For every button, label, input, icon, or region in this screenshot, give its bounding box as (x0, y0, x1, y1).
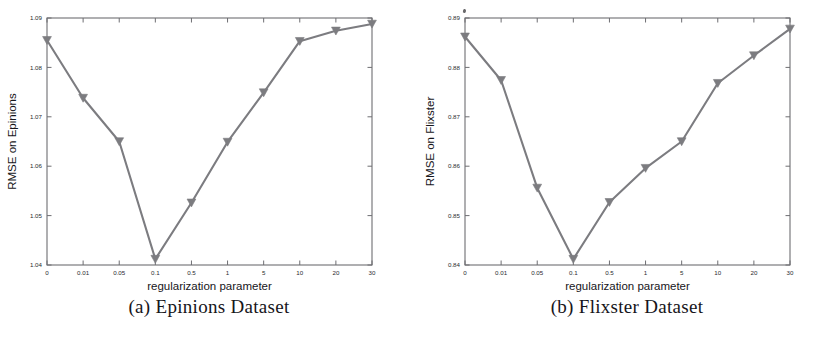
data-point-marker (115, 138, 124, 146)
y-tick-label: 0.84 (448, 261, 461, 268)
x-tick-label: 0.05 (113, 269, 126, 276)
x-tick-label: 20 (332, 269, 339, 276)
chart-epinions: 1.091.081.071.061.051.0400.010.050.10.51… (0, 0, 418, 292)
panel-caption-a: (a) Epinions Dataset (0, 296, 418, 318)
panel-epinions: 1.091.081.071.061.051.0400.010.050.10.51… (0, 0, 418, 350)
y-tick-label: 0.89 (448, 14, 461, 21)
y-tick-label: 0.87 (448, 113, 461, 120)
plot-frame (465, 18, 790, 265)
data-point-marker (569, 255, 578, 263)
x-tick-label: 5 (680, 269, 684, 276)
data-series-line (47, 24, 372, 259)
x-tick-label: 0.1 (151, 269, 160, 276)
y-tick-label: 1.06 (30, 162, 43, 169)
y-tick-label: 1.08 (30, 64, 43, 71)
y-tick-label: 1.07 (30, 113, 43, 120)
x-tick-label: 0.01 (495, 269, 508, 276)
data-point-marker (533, 184, 542, 192)
x-tick-label: 0.5 (605, 269, 614, 276)
x-tick-label: 10 (714, 269, 721, 276)
x-tick-label: 1 (644, 269, 648, 276)
y-tick-label: 1.09 (30, 14, 43, 21)
x-axis-title: regularization parameter (147, 280, 272, 292)
y-tick-label: 0.88 (448, 64, 461, 71)
y-axis-title: RMSE on Epinions (6, 93, 18, 190)
data-point-marker (223, 138, 232, 146)
x-axis-title: regularization parameter (565, 280, 690, 292)
x-tick-label: 0.01 (77, 269, 90, 276)
panel-caption-b: (b) Flixster Dataset (418, 296, 836, 318)
x-tick-label: 0.05 (531, 269, 544, 276)
figure-container: 1.091.081.071.061.051.0400.010.050.10.51… (0, 0, 836, 350)
plot-frame (47, 18, 372, 265)
panel-flixster: 0.890.880.870.860.850.8400.010.050.10.51… (418, 0, 836, 350)
chart-flixster-svg: 0.890.880.870.860.850.8400.010.050.10.51… (418, 0, 836, 292)
x-tick-label: 0.1 (569, 269, 578, 276)
x-tick-label: 30 (369, 269, 376, 276)
y-tick-label: 1.04 (30, 261, 43, 268)
x-tick-label: 0.5 (187, 269, 196, 276)
x-tick-label: 20 (750, 269, 757, 276)
y-axis-title: RMSE on Flixster (424, 97, 436, 187)
y-tick-label: 0.85 (448, 212, 461, 219)
data-point-marker (497, 77, 506, 85)
x-tick-label: 1 (226, 269, 230, 276)
x-tick-label: 30 (787, 269, 794, 276)
x-tick-label: 0 (463, 269, 467, 276)
chart-flixster: 0.890.880.870.860.850.8400.010.050.10.51… (418, 0, 836, 292)
y-tick-label: 1.05 (30, 212, 43, 219)
x-tick-label: 5 (262, 269, 266, 276)
x-tick-label: 0 (45, 269, 49, 276)
chart-epinions-svg: 1.091.081.071.061.051.0400.010.050.10.51… (0, 0, 418, 292)
data-series-line (465, 29, 790, 259)
data-point-marker (151, 255, 160, 263)
x-tick-label: 10 (296, 269, 303, 276)
y-tick-label: 0.86 (448, 162, 461, 169)
